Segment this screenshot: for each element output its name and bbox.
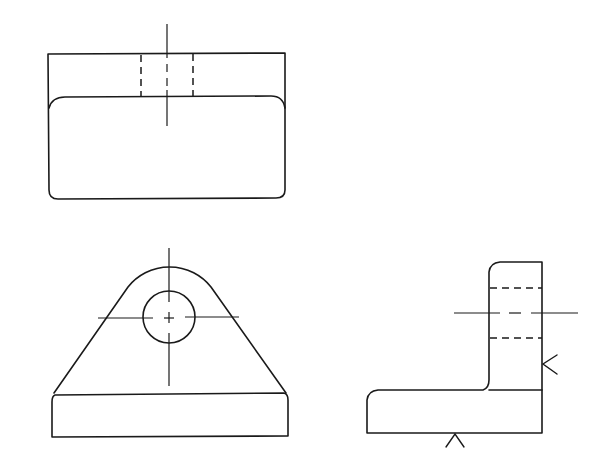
front-view-base xyxy=(52,393,288,437)
bottom-direction-arrow-icon xyxy=(446,434,464,447)
drawing-canvas xyxy=(0,0,615,469)
top-view xyxy=(48,24,285,199)
front-view xyxy=(52,248,288,437)
orthographic-drawing xyxy=(0,0,615,469)
side-view xyxy=(367,262,578,447)
right-direction-arrow-icon xyxy=(543,355,557,374)
front-view-boss-outline xyxy=(54,267,286,393)
